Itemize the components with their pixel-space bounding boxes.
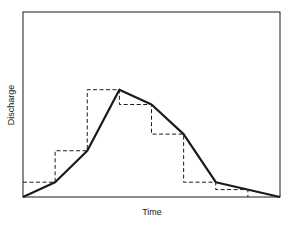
hydrograph-line [23, 90, 280, 197]
y-axis-label: Discharge [6, 85, 16, 126]
hydrograph-chart [0, 0, 285, 228]
hydrograph-series [23, 90, 280, 197]
x-axis-label: Time [142, 207, 162, 217]
